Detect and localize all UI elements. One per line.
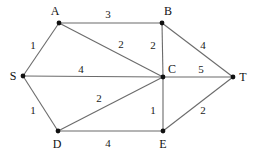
edge-weight-s-d: 1 — [30, 105, 36, 116]
node-label-a: A — [51, 5, 60, 17]
edge-weight-d-c: 2 — [96, 93, 102, 104]
edge-weight-b-t: 4 — [200, 40, 206, 51]
node-label-t: T — [239, 71, 246, 83]
graph-node-s — [21, 74, 26, 79]
edge-weight-c-t: 5 — [198, 64, 204, 75]
node-label-c: C — [168, 63, 176, 75]
node-label-s: S — [10, 70, 17, 82]
edge-weight-e-t: 2 — [200, 105, 206, 116]
node-label-d: D — [53, 138, 62, 150]
edge-weight-b-c: 2 — [150, 40, 156, 51]
graph-canvas — [0, 0, 257, 157]
edge-weight-c-e: 1 — [150, 105, 156, 116]
graph-edge-s-d — [23, 76, 58, 131]
graph-node-b — [160, 21, 165, 26]
edge-weight-s-a: 1 — [30, 40, 36, 51]
graph-edge-d-c — [58, 77, 163, 131]
graph-edge-s-c — [23, 76, 163, 77]
graph-node-c — [161, 75, 166, 80]
graph-edge-b-c — [162, 23, 163, 77]
graph-node-a — [57, 21, 62, 26]
graph-edge-s-a — [23, 23, 59, 76]
graph-node-t — [231, 75, 236, 80]
edge-weight-s-c: 4 — [78, 64, 84, 75]
graph-figure: SABCDET 132424512412 — [0, 0, 257, 157]
graph-node-e — [161, 129, 166, 134]
edge-weight-a-b: 3 — [105, 9, 111, 20]
edge-weight-d-e: 4 — [105, 138, 111, 149]
edge-weight-a-c: 2 — [118, 39, 124, 50]
node-label-b: B — [164, 5, 172, 17]
node-label-e: E — [159, 138, 166, 150]
graph-edge-a-c — [59, 23, 163, 77]
graph-node-d — [56, 129, 61, 134]
graph-edge-e-t — [163, 77, 233, 131]
